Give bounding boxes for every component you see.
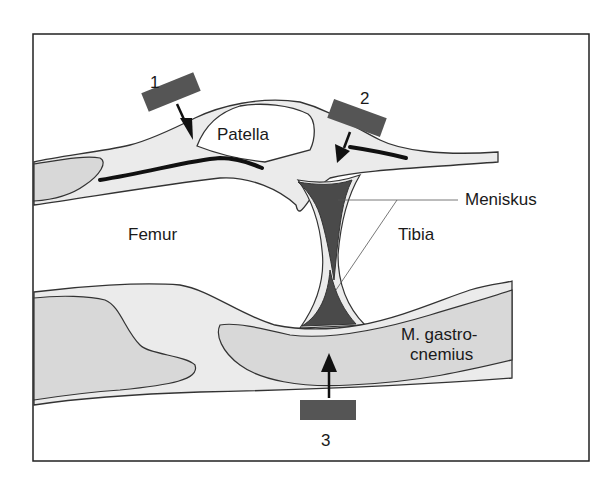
- gastrocnemius-label-line1: M. gastro-: [401, 325, 478, 344]
- knee-diagram: 1 2 3 Patella Femur Tibia Meniskus M. ga…: [0, 0, 615, 488]
- probe-3-label: 3: [321, 431, 330, 450]
- probe-2-label: 2: [360, 89, 369, 108]
- femur-label: Femur: [128, 225, 177, 244]
- diagram-frame: [33, 34, 589, 461]
- patella-label: Patella: [217, 125, 270, 144]
- gastrocnemius-label-line2: cnemius: [410, 345, 473, 364]
- probe-1-label: 1: [150, 73, 159, 92]
- tibia-label: Tibia: [398, 225, 435, 244]
- meniskus-label: Meniskus: [465, 190, 537, 209]
